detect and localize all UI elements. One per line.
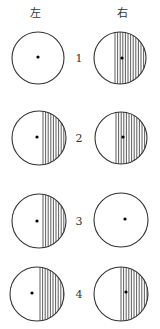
row-number: 3: [76, 215, 83, 228]
row-1: 1: [12, 32, 146, 84]
row-3: 3: [12, 193, 148, 248]
right-eye-circle: [95, 112, 147, 164]
fixation-dot: [35, 219, 38, 222]
fixation-dot: [124, 290, 127, 293]
hatched-region: [43, 194, 64, 248]
left-eye-circle: [12, 194, 66, 248]
left-eye-circle: [12, 111, 66, 165]
row-2: 2: [12, 111, 147, 165]
fixation-dot: [121, 135, 124, 138]
left-column-label: 左: [30, 7, 41, 20]
right-eye-circle: [94, 32, 146, 84]
left-eye-circle: [12, 32, 64, 84]
fixation-dot: [123, 217, 126, 220]
fixation-dot: [120, 56, 123, 59]
fixation-dot: [36, 55, 39, 58]
hatched-region: [43, 111, 64, 165]
row-number: 4: [76, 288, 83, 301]
fixation-dot: [35, 135, 38, 138]
fixation-dot: [30, 291, 33, 294]
left-eye-circle: [10, 267, 64, 321]
row-number: 1: [76, 52, 83, 65]
row-4: 4: [10, 267, 148, 321]
visual-field-diagram: 左 右 1234: [0, 0, 160, 329]
right-eye-circle: [94, 267, 148, 321]
right-eye-circle: [94, 193, 148, 247]
hatched-region: [121, 267, 147, 321]
right-column-label: 右: [117, 6, 128, 20]
circle-rows: 1234: [10, 32, 148, 321]
row-number: 2: [76, 132, 83, 145]
hatched-region: [40, 267, 63, 321]
